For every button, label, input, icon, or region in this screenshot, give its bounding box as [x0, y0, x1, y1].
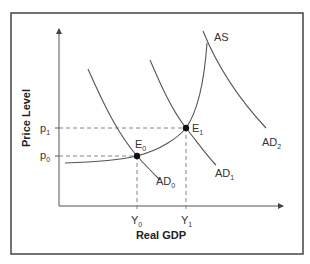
diagram-frame: [11, 13, 303, 254]
as-label: AS: [214, 31, 229, 43]
ad0-label: AD0: [156, 175, 175, 189]
e0-label: E0: [135, 138, 146, 152]
x-axis-title: Real GDP: [136, 229, 186, 241]
ad0-curve: [88, 69, 160, 180]
p1-label: p1: [40, 122, 50, 136]
p0-label: p0: [40, 149, 50, 163]
ad1-label: AD1: [215, 167, 234, 181]
e1-point: [183, 125, 189, 131]
ad2-label: AD2: [262, 136, 281, 150]
ad2-curve: [203, 31, 266, 128]
y0-label: Y0: [131, 214, 142, 228]
e0-point: [134, 153, 140, 159]
e1-label: E1: [192, 122, 203, 136]
y1-label: Y1: [181, 214, 192, 228]
y-axis-title: Price Level: [20, 89, 32, 147]
as-ad-diagram: AS AD0 AD1 AD2 E0 E1 p1 p0 Y0 Y1 Real GD…: [0, 0, 310, 264]
ad1-curve: [150, 60, 216, 165]
